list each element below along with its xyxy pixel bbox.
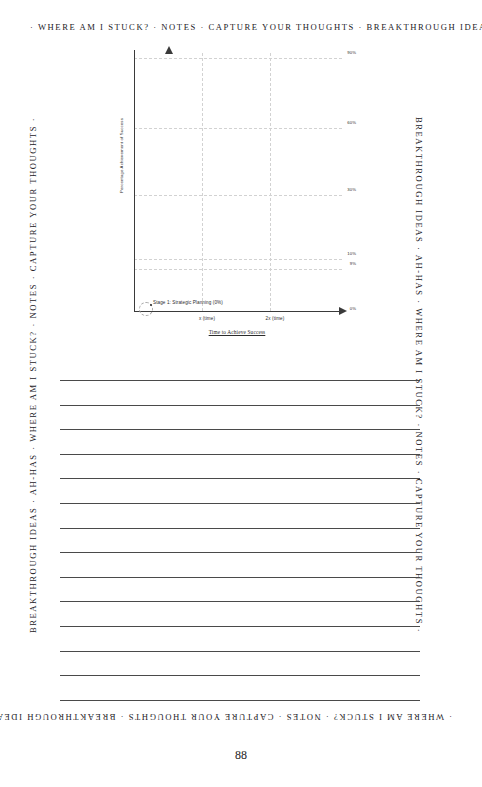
note-line[interactable] [60, 503, 420, 504]
x-axis-title: Time to Achieve Success [134, 329, 340, 335]
note-line[interactable] [60, 528, 420, 529]
note-line[interactable] [60, 675, 420, 676]
gridline-horizontal [134, 269, 342, 270]
gridline-horizontal [134, 58, 342, 59]
y-tick-label: 9% [332, 261, 358, 266]
x-tick-label: 2x (time) [250, 316, 300, 321]
y-axis [134, 50, 135, 312]
y-axis-arrow-icon [165, 46, 173, 54]
note-line[interactable] [60, 405, 420, 406]
page-border-text-left: BREAKTHROUGH IDEAS · AH-HAS · WHERE AM I… [28, 50, 38, 700]
note-line[interactable] [60, 626, 420, 627]
notebook-page: · WHERE AM I STUCK? · NOTES · CAPTURE YO… [0, 0, 482, 787]
note-line[interactable] [60, 700, 420, 701]
gridline-horizontal [134, 195, 342, 196]
y-axis-title: Percentage Achievement of Success [119, 86, 124, 226]
note-line[interactable] [60, 429, 420, 430]
stage-annotation-label: Stage 1: Strategic Planning (0%) [153, 300, 223, 305]
notes-ruled-lines[interactable] [60, 380, 420, 724]
note-line[interactable] [60, 478, 420, 479]
note-line[interactable] [60, 651, 420, 652]
gridline-vertical [270, 53, 271, 311]
note-line[interactable] [60, 380, 420, 381]
chart-plot-area [134, 53, 342, 311]
y-tick-label: 30% [332, 187, 358, 192]
y-tick-label-origin: 0% [332, 306, 358, 311]
y-tick-label: 60% [332, 120, 358, 125]
note-line[interactable] [60, 552, 420, 553]
stage-point-marker [150, 304, 152, 306]
x-axis [134, 311, 340, 312]
success-chart: 90% 60% 30% 10% 9% 0% x (time) 2x (time)… [100, 48, 358, 338]
gridline-vertical [202, 53, 203, 311]
gridline-horizontal [134, 128, 342, 129]
y-tick-label: 10% [332, 251, 358, 256]
page-number: 88 [0, 748, 482, 763]
page-border-text-top: · WHERE AM I STUCK? · NOTES · CAPTURE YO… [30, 22, 452, 32]
x-tick-label: x (time) [182, 316, 232, 321]
gridline-horizontal [134, 259, 342, 260]
note-line[interactable] [60, 601, 420, 602]
note-line[interactable] [60, 577, 420, 578]
y-tick-label: 90% [332, 50, 358, 55]
note-line[interactable] [60, 454, 420, 455]
